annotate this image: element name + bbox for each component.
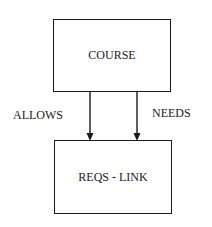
reqs-link-label: REQS - LINK xyxy=(78,170,147,185)
allows-edge-label: ALLOWS xyxy=(13,108,63,123)
needs-edge-label: NEEDS xyxy=(152,106,191,121)
reqs-link-entity-box: REQS - LINK xyxy=(54,140,172,214)
